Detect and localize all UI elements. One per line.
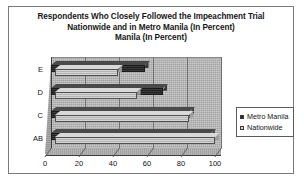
chart-title-line-1: Respondents Who Closely Followed the Imp…: [9, 12, 293, 23]
bar-face: [55, 92, 137, 99]
chart-title-line-3: Manila (In Percent): [9, 33, 293, 44]
bar-d-nationwide: [55, 92, 137, 99]
chart-title: Respondents Who Closely Followed the Imp…: [9, 12, 293, 43]
x-axis-label-40: 40: [109, 159, 117, 168]
y-axis-category-labels: E D C AB: [11, 57, 43, 157]
bar-face: [55, 137, 215, 144]
chart-title-line-2: Nationwide and in Metro Manila (In Perce…: [9, 23, 293, 34]
legend-label-metro-manila: Metro Manila: [247, 112, 289, 121]
x-axis-label-80: 80: [177, 159, 185, 168]
plot-area: [45, 57, 221, 157]
plot-floor: [45, 148, 221, 156]
x-axis-label-60: 60: [143, 159, 151, 168]
bar-face: [55, 69, 118, 76]
legend-item-metro-manila: Metro Manila: [240, 111, 289, 122]
chart-legend: Metro Manila Nationwide: [236, 107, 294, 137]
bar-e-nationwide: [55, 69, 118, 76]
chart-frame: Respondents Who Closely Followed the Imp…: [8, 6, 294, 174]
y-axis-label-e: E: [13, 65, 43, 74]
y-axis-label-ab: AB: [13, 134, 43, 143]
gridline-100: [221, 57, 222, 148]
y-axis-label-c: C: [13, 111, 43, 120]
bar-c-nationwide: [55, 115, 189, 122]
x-axis-tick-labels: 020406080100: [45, 159, 230, 171]
bar-face: [55, 115, 189, 122]
legend-item-nationwide: Nationwide: [240, 122, 289, 133]
legend-label-nationwide: Nationwide: [247, 123, 283, 132]
y-axis-label-d: D: [13, 88, 43, 97]
x-axis-label-0: 0: [43, 159, 47, 168]
bar-ab-nationwide: [55, 137, 215, 144]
legend-swatch-metro-manila-icon: [240, 115, 244, 119]
legend-swatch-nationwide-icon: [240, 126, 244, 130]
x-axis-label-100: 100: [209, 159, 222, 168]
x-axis-label-20: 20: [75, 159, 83, 168]
